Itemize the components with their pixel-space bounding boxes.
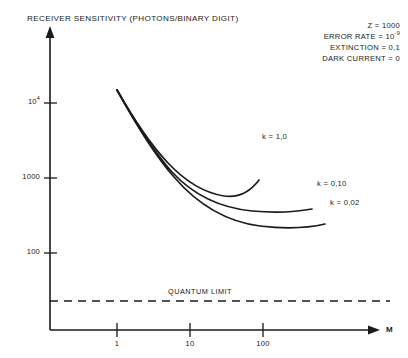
curve-k-1-0 bbox=[117, 90, 259, 196]
quantum-limit-label: QUANTUM LIMIT bbox=[168, 288, 232, 296]
parameter-block: Z = 1000 ERROR RATE = 10-9 EXTINCTION = … bbox=[322, 22, 400, 66]
y-tick-label-10000-exponent: 4 bbox=[37, 95, 40, 101]
x-tick-label-10: 10 bbox=[176, 340, 204, 349]
x-tick-label-1: 1 bbox=[103, 340, 131, 349]
param-error-rate-exponent: -9 bbox=[395, 30, 400, 36]
page-title: RECEIVER SENSITIVITY (PHOTONS/BINARY DIG… bbox=[27, 14, 238, 23]
param-error-rate-text: ERROR RATE = 10 bbox=[324, 32, 395, 41]
y-tick-label-10000: 104 bbox=[4, 98, 40, 107]
param-error-rate: ERROR RATE = 10-9 bbox=[322, 33, 400, 42]
figure-receiver-sensitivity: RECEIVER SENSITIVITY (PHOTONS/BINARY DIG… bbox=[0, 0, 408, 358]
x-axis-label: M bbox=[386, 325, 393, 334]
x-axis bbox=[50, 326, 380, 335]
curve-label-k-1-0: k = 1,0 bbox=[262, 133, 287, 142]
curve-label-k-0-10: k = 0,10 bbox=[317, 180, 347, 189]
param-extinction: EXTINCTION = 0,1 bbox=[322, 44, 400, 53]
param-z: Z = 1000 bbox=[322, 22, 400, 31]
curve-k-0-02 bbox=[117, 90, 325, 228]
x-tick-label-100: 100 bbox=[249, 340, 277, 349]
y-tick-label-10000-mantissa: 10 bbox=[28, 97, 37, 106]
param-dark-current: DARK CURRENT = 0 bbox=[322, 55, 400, 64]
curve-label-k-0-02: k = 0,02 bbox=[330, 199, 360, 208]
y-tick-label-1000: 1000 bbox=[4, 173, 40, 182]
y-tick-label-100: 100 bbox=[4, 248, 40, 257]
